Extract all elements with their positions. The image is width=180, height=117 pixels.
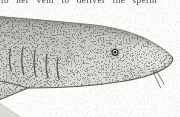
eye-pupil	[114, 51, 117, 54]
page-text-fragment: to her vent to deliver the sperm	[1, 0, 157, 5]
shark-illustration	[0, 0, 180, 117]
spiracle-smudge	[107, 55, 109, 57]
book-page-scan: to her vent to deliver the sperm	[0, 0, 180, 117]
